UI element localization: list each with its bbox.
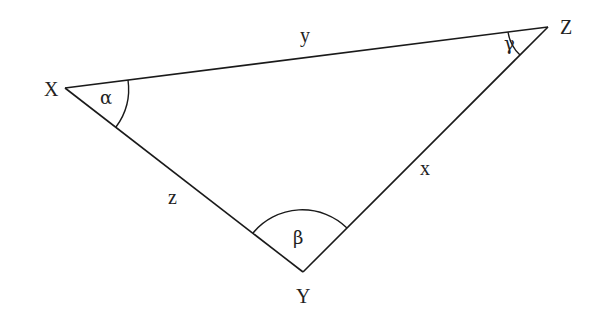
side-zy (303, 27, 548, 272)
side-label-x: x (420, 157, 430, 179)
vertex-label-x: X (44, 78, 59, 100)
side-label-z: z (168, 186, 177, 208)
vertex-label-z: Z (560, 16, 572, 38)
vertex-label-y: Y (296, 285, 310, 307)
angle-label-gamma: γ (504, 33, 515, 54)
triangle-diagram: X Z Y α γ β y x z (0, 0, 605, 313)
side-label-y: y (300, 24, 310, 47)
side-xy (65, 88, 303, 272)
angle-arc-alpha (116, 80, 129, 127)
angle-label-beta: β (293, 227, 303, 248)
angle-label-alpha: α (100, 87, 112, 108)
